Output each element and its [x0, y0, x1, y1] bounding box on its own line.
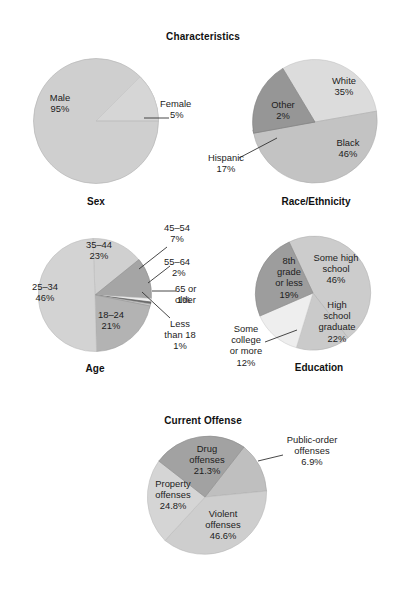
pie-label-other-name: Hispanic	[208, 152, 244, 163]
pie-label-hispanic-name: Other	[271, 99, 294, 110]
pie-label-black: Black 46%	[320, 137, 376, 159]
pie-label-55-64-value: 2%	[164, 267, 186, 278]
pie-label-female: Female 5%	[160, 98, 212, 120]
leader-line-less-than-18	[142, 291, 172, 319]
pie-label-high-school-graduate-name: Highschoolgraduate	[318, 299, 355, 332]
pie-label-hispanic-value: 2%	[276, 110, 290, 121]
pie-label-female-value: 5%	[160, 109, 184, 120]
pie-label-35-44-value: 23%	[90, 250, 109, 261]
pie-label-white-value: 35%	[335, 86, 354, 97]
pie-label-female-name: Female	[160, 98, 191, 109]
chart-title-age: Age	[60, 363, 130, 374]
pie-label-55-64: 55–64 2%	[164, 256, 214, 278]
pie-label-some-college-or-more-value: 12%	[237, 357, 256, 368]
pie-label-18-24-value: 21%	[102, 320, 121, 331]
pie-label-55-64-name: 55–64	[164, 256, 190, 267]
pie-label-65-or-older-value-line: 1%	[177, 294, 221, 305]
pie-label-drug-offenses: Drugoffenses 21.3%	[176, 443, 238, 477]
pie-label-property-offenses: Propertyoffenses 24.8%	[142, 478, 204, 512]
pie-label-less-than-18-name: Lessthan 18	[164, 318, 195, 340]
pie-label-25-34-name: 25–34	[32, 281, 58, 292]
pie-label-8th-grade-or-less: 8thgradeor less 19%	[265, 255, 313, 300]
leader-line-some-college-or-more	[265, 329, 299, 343]
pie-label-black-name: Black	[337, 137, 360, 148]
pie-label-less-than-18-value: 1%	[173, 340, 187, 351]
pie-label-8th-grade-or-less-value: 19%	[280, 289, 299, 300]
pie-label-65-or-older-value: 1%	[177, 294, 191, 305]
pie-label-public-order-offenses-name: Public-orderoffenses	[287, 434, 338, 456]
chart-title-race-ethnicity: Race/Ethnicity	[268, 196, 364, 207]
pie-label-other: Hispanic 17%	[204, 152, 248, 174]
pie-label-8th-grade-or-less-name: 8thgradeor less	[275, 255, 303, 288]
pie-label-white: White 35%	[316, 75, 372, 97]
pie-label-some-high-school: Some highschool 46%	[305, 252, 367, 286]
pie-label-25-34: 25–34 46%	[18, 281, 72, 303]
pie-label-high-school-graduate-value: 22%	[328, 333, 347, 344]
pie-label-some-high-school-value: 46%	[327, 274, 346, 285]
pie-label-public-order-offenses: Public-orderoffenses 6.9%	[277, 434, 347, 468]
pie-label-violent-offenses-value: 46.6%	[210, 530, 237, 541]
pie-label-violent-offenses-name: Violentoffenses	[205, 508, 240, 530]
pie-label-less-than-18: Lessthan 18 1%	[153, 318, 207, 352]
pie-chart-sex	[33, 58, 159, 184]
pie-label-violent-offenses: Violentoffenses 46.6%	[192, 508, 254, 542]
pie-label-public-order-offenses-value: 6.9%	[301, 456, 322, 467]
pie-label-other-value: 17%	[217, 163, 236, 174]
pie-label-18-24: 18–24 21%	[84, 309, 138, 331]
pie-label-some-high-school-name: Some highschool	[314, 252, 359, 274]
pie-label-18-24-name: 18–24	[98, 309, 124, 320]
pie-label-drug-offenses-value: 21.3%	[194, 465, 221, 476]
pie-label-35-44: 35–44 23%	[72, 239, 126, 261]
pie-label-male: Male 95%	[28, 92, 92, 114]
section-title-current-offense: Current Offense	[0, 415, 406, 426]
chart-title-sex: Sex	[56, 196, 136, 207]
pie-label-45-54: 45–54 7%	[150, 222, 204, 244]
pie-label-male-value: 95%	[51, 103, 70, 114]
pie-label-high-school-graduate: Highschoolgraduate 22%	[308, 299, 366, 344]
pie-label-drug-offenses-name: Drugoffenses	[189, 443, 224, 465]
pie-label-male-name: Male	[50, 92, 70, 103]
figure-canvas: Characteristics Male 95% Female 5% Sex	[0, 0, 406, 589]
pie-label-hispanic: Other 2%	[254, 99, 312, 121]
section-title-characteristics: Characteristics	[0, 31, 406, 42]
chart-title-education: Education	[280, 362, 358, 373]
pie-label-some-college-or-more: Somecollegeor more 12%	[222, 323, 270, 368]
pie-sex-svg	[33, 58, 159, 184]
pie-label-some-college-or-more-name: Somecollegeor more	[230, 323, 262, 356]
pie-label-35-44-name: 35–44	[86, 239, 112, 250]
pie-label-25-34-value: 46%	[36, 292, 55, 303]
pie-label-property-offenses-value: 24.8%	[160, 500, 187, 511]
pie-label-45-54-value: 7%	[170, 233, 184, 244]
pie-label-property-offenses-name: Propertyoffenses	[155, 478, 190, 500]
pie-label-black-value: 46%	[339, 148, 358, 159]
pie-label-white-name: White	[332, 75, 356, 86]
pie-label-45-54-name: 45–54	[164, 222, 190, 233]
